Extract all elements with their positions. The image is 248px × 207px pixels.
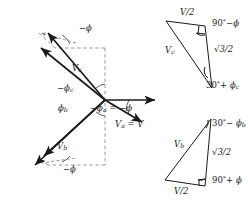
label-top-triangle-angle-30-plus-phic: 30°+ ϕc: [206, 81, 239, 91]
dashed-top-angle-ray: [39, 33, 55, 48]
label-phi-b: ϕb: [58, 104, 68, 113]
label-top-triangle-v-over-2: V/2: [180, 8, 194, 17]
label-bottom-triangle-sqrt3-over-2: √3/2: [212, 148, 231, 157]
angle-arc-group: [62, 35, 129, 162]
figure-canvas: −ϕ Vc −ϕc ϕb −ϕa = −ϕ Va = V Vb −ϕ V/2 9…: [0, 0, 248, 207]
triangle-top-bottom-arc: [204, 67, 208, 78]
label-vb-phasor: Vb: [57, 142, 67, 151]
phasor-arrows: [35, 33, 155, 165]
arc-phi-c: [96, 84, 105, 88]
label-bottom-triangle-angle-30-minus-phib: 30°− ϕb: [212, 119, 246, 129]
dashed-phi-top-leader: [41, 33, 76, 43]
label-bottom-triangle-angle-90-plus-phi: 90°+ ϕ: [212, 176, 242, 185]
label-top-triangle-hypotenuse-vc: Vc: [165, 46, 175, 55]
dashed-phi-bottom-leader: [41, 158, 76, 163]
triangle-bottom-shape: [165, 119, 211, 186]
label-vc-phasor: Vc: [72, 64, 82, 73]
label-top-triangle-sqrt3-over-2: √3/2: [214, 45, 233, 54]
label-neg-phi-bottom: −ϕ: [63, 165, 76, 174]
label-bottom-triangle-hypotenuse-vb: Vb: [174, 140, 184, 149]
label-neg-phi-top: −ϕ: [79, 24, 92, 33]
triangle-bottom-path: [165, 119, 211, 186]
label-neg-phi-a: −ϕa = −ϕ: [90, 104, 132, 113]
label-bottom-triangle-v-over-2: V/2: [174, 187, 188, 196]
label-neg-phi-c: −ϕc: [57, 84, 73, 93]
label-top-triangle-angle-90-minus-phi: 90°−ϕ: [212, 19, 239, 28]
label-va-equals-v: Va = V: [115, 120, 144, 129]
